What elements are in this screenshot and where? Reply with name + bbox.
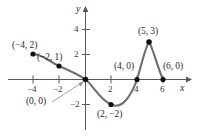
- data-point-2-neg2: [108, 102, 113, 107]
- x-axis-label: x: [180, 83, 184, 93]
- data-point-neg4-2: [30, 51, 35, 56]
- point-label-4-0: (4, 0): [114, 62, 134, 72]
- y-tick-label-2: 2: [74, 50, 78, 59]
- point-label-6-0: (6, 0): [163, 62, 183, 72]
- y-tick-label-neg2: −2: [70, 100, 79, 109]
- y-tick-label-4: 4: [74, 25, 78, 34]
- point-label-0-0: (0, 0): [26, 97, 46, 107]
- point-label-neg4-2: (−4, 2): [12, 41, 37, 51]
- y-axis-arrow-icon: [83, 6, 89, 12]
- x-axis-arrow-icon: [186, 77, 192, 83]
- data-point-0-0: [83, 77, 89, 83]
- y-axis-label: y: [76, 4, 80, 14]
- data-point-6-0: [160, 77, 165, 82]
- x-tick-label-neg2: −2: [53, 85, 62, 94]
- point-label-5-3: (5, 3): [138, 27, 158, 37]
- x-tick-label-4: 4: [134, 85, 138, 94]
- data-point-4-0: [134, 77, 139, 82]
- point-label-neg2-1: (−2, 1): [37, 53, 62, 63]
- data-point-5-3: [146, 39, 152, 45]
- data-point-neg2-1: [56, 63, 61, 68]
- x-tick-label-neg4: −4: [27, 85, 36, 94]
- x-tick-label-2: 2: [108, 85, 112, 94]
- origin-leader-arrow-icon: [79, 82, 84, 87]
- point-label-2-neg2: (2, −2): [97, 110, 122, 120]
- x-tick-label-6: 6: [160, 85, 164, 94]
- graph-figure: (−4, 2) (−2, 1) (0, 0) (2, −2) (4, 0) (5…: [0, 0, 200, 140]
